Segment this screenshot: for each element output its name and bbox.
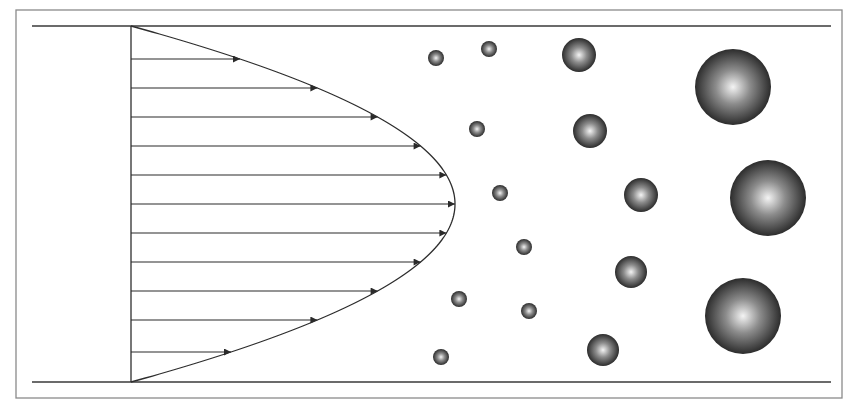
large-particle-icon bbox=[730, 160, 806, 236]
medium-particle-icon bbox=[587, 334, 619, 366]
velocity-profile bbox=[131, 26, 455, 382]
small-particles bbox=[428, 41, 537, 365]
velocity-arrows bbox=[131, 59, 455, 352]
flow-diagram bbox=[0, 0, 858, 412]
large-particle-icon bbox=[695, 49, 771, 125]
small-particle-icon bbox=[481, 41, 497, 57]
small-particle-icon bbox=[492, 185, 508, 201]
small-particle-icon bbox=[451, 291, 467, 307]
medium-particle-icon bbox=[624, 178, 658, 212]
small-particle-icon bbox=[521, 303, 537, 319]
small-particle-icon bbox=[516, 239, 532, 255]
small-particle-icon bbox=[469, 121, 485, 137]
small-particle-icon bbox=[433, 349, 449, 365]
medium-particle-icon bbox=[615, 256, 647, 288]
large-particle-icon bbox=[705, 278, 781, 354]
medium-particle-icon bbox=[562, 38, 596, 72]
large-particles bbox=[695, 49, 806, 354]
medium-particle-icon bbox=[573, 114, 607, 148]
medium-particles bbox=[562, 38, 658, 366]
small-particle-icon bbox=[428, 50, 444, 66]
